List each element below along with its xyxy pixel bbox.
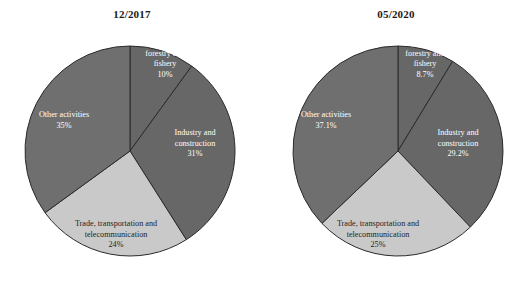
pie-right-svg (292, 45, 504, 257)
pie-left-svg (24, 45, 236, 257)
pie-left-slices (25, 46, 235, 256)
chart-panel-left: 12/2017 Agriculture, forestry and fisher… (0, 0, 264, 282)
pie-left (24, 45, 236, 257)
pie-chart-figure: 12/2017 Agriculture, forestry and fisher… (0, 0, 528, 282)
chart-title-left: 12/2017 (0, 8, 264, 20)
pie-right-slices (293, 46, 503, 256)
chart-panel-right: 05/2020 Agriculture, forestry and fisher… (264, 0, 528, 282)
pie-right (292, 45, 504, 257)
chart-title-right: 05/2020 (264, 8, 528, 20)
